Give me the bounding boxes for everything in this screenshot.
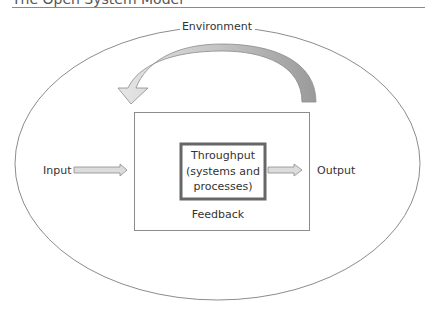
throughput-label: Throughput [190, 149, 256, 162]
input-arrow [74, 164, 127, 176]
open-system-diagram: Environment Throughput (systems and proc… [0, 0, 434, 314]
throughput-sublabel-2: processes) [193, 180, 252, 193]
feedback-label: Feedback [192, 208, 245, 221]
output-label: Output [317, 164, 356, 177]
throughput-sublabel-1: (systems and [186, 165, 260, 178]
input-label: Input [43, 164, 72, 177]
feedback-curved-arrow [118, 44, 316, 104]
environment-label: Environment [182, 20, 253, 33]
